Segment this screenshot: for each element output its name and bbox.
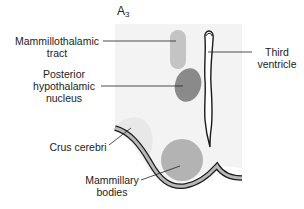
- label-line: Mammillothalamic: [14, 35, 100, 47]
- label-line: Third: [252, 46, 302, 58]
- mammillothalamic-tract: [170, 30, 186, 69]
- diagram-illustration: [0, 0, 304, 209]
- label-mammillary-bodies: Mammillary bodies: [84, 174, 140, 198]
- label-third-ventricle: Third ventricle: [252, 46, 302, 70]
- mammillary-body: [161, 139, 203, 181]
- label-crus-cerebri: Crus cerebri: [48, 141, 108, 153]
- section-title-letter: A: [117, 4, 125, 18]
- label-posterior-hypothalamic-nucleus: Posterior hypothalamic nucleus: [28, 68, 100, 104]
- label-line: nucleus: [28, 92, 100, 104]
- diagram: A3 Mammillothalamic tract Posterior hypo…: [0, 0, 304, 209]
- label-line: Mammillary: [84, 174, 140, 186]
- section-title: A3: [117, 4, 129, 19]
- label-line: ventricle: [252, 58, 302, 70]
- section-title-subscript: 3: [125, 10, 129, 19]
- label-line: Posterior: [28, 68, 100, 80]
- label-line: hypothalamic: [28, 80, 100, 92]
- label-line: Crus cerebri: [48, 141, 108, 153]
- label-mammillothalamic-tract: Mammillothalamic tract: [14, 35, 100, 59]
- label-line: bodies: [84, 186, 140, 198]
- label-line: tract: [14, 47, 100, 59]
